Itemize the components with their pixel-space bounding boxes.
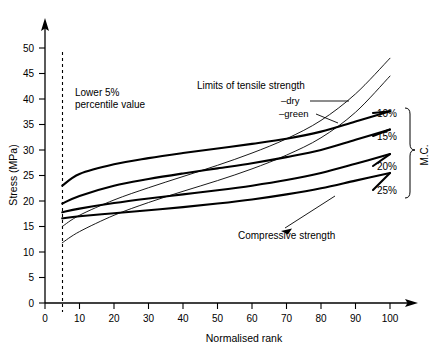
legend-label-20: 20% xyxy=(377,161,397,172)
compressive-arrow-shaft xyxy=(285,196,335,228)
chart-container: 0 5 10 15 20 25 30 35 40 45 50 xyxy=(0,0,439,361)
legend-label-10: 10% xyxy=(377,108,397,119)
y-axis-ticks xyxy=(39,48,45,303)
y-tick-label-5: 5 xyxy=(28,272,34,283)
annotation-compressive-strength: Compressive strength xyxy=(238,196,335,241)
x-tick-label-100: 100 xyxy=(382,313,399,324)
y-tick-label-25: 25 xyxy=(23,170,35,181)
callout-dry: –dry xyxy=(281,95,349,106)
legend-label-25: 25% xyxy=(377,185,397,196)
x-axis-title: Normalised rank xyxy=(206,332,283,344)
x-tick-label-80: 80 xyxy=(315,313,327,324)
lower-percentile-line1: Lower 5% xyxy=(75,87,120,98)
legend-brace xyxy=(405,108,415,198)
annotation-tensile-limits: Limits of tensile strength xyxy=(197,80,305,91)
callout-green: –green xyxy=(279,108,338,123)
y-tick-label-10: 10 xyxy=(23,247,35,258)
x-axis-ticks xyxy=(45,303,390,309)
curve-compressive-25 xyxy=(62,173,390,218)
x-axis-tick-labels: 0 10 20 30 40 50 60 70 80 90 100 xyxy=(42,313,399,324)
curve-compressive-10 xyxy=(62,111,390,185)
callout-green-label: –green xyxy=(279,108,309,119)
stress-normalised-rank-chart: 0 5 10 15 20 25 30 35 40 45 50 xyxy=(0,0,439,361)
x-tick-label-0: 0 xyxy=(42,313,48,324)
legend-label-15: 15% xyxy=(377,131,397,142)
x-tick-label-50: 50 xyxy=(212,313,224,324)
x-tick-label-30: 30 xyxy=(143,313,155,324)
x-tick-label-70: 70 xyxy=(281,313,293,324)
y-tick-label-15: 15 xyxy=(23,221,35,232)
y-axis-title: Stress (MPa) xyxy=(7,144,19,205)
x-tick-label-90: 90 xyxy=(350,313,362,324)
y-tick-label-35: 35 xyxy=(23,119,35,130)
curve-compressive-15 xyxy=(62,130,390,204)
lower-percentile-line2: percentile value xyxy=(75,99,145,110)
legend-mc: 10% 15% 20% 25% M.C. xyxy=(373,108,430,198)
y-tick-label-20: 20 xyxy=(23,196,35,207)
x-tick-label-20: 20 xyxy=(108,313,120,324)
x-tick-label-40: 40 xyxy=(177,313,189,324)
legend-group-label: M.C. xyxy=(419,144,430,165)
y-axis-tick-labels: 0 5 10 15 20 25 30 35 40 45 50 xyxy=(23,43,35,309)
y-tick-label-0: 0 xyxy=(28,298,34,309)
callout-dry-label: –dry xyxy=(281,95,300,106)
y-tick-label-45: 45 xyxy=(23,68,35,79)
y-tick-label-50: 50 xyxy=(23,43,35,54)
y-tick-label-30: 30 xyxy=(23,145,35,156)
annotation-lower-percentile: Lower 5% percentile value xyxy=(75,87,145,110)
x-tick-label-10: 10 xyxy=(74,313,86,324)
y-tick-label-40: 40 xyxy=(23,94,35,105)
x-tick-label-60: 60 xyxy=(246,313,258,324)
